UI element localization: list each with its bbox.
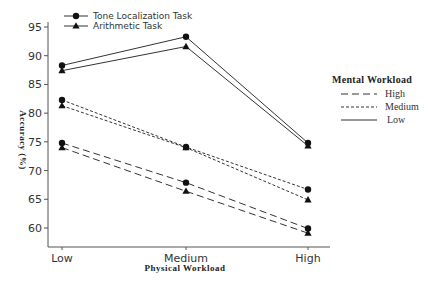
- y-axis-title: Accuracy (%): [18, 110, 28, 170]
- circle-marker: [183, 34, 189, 40]
- line-chart: 6065707580859095 LowMediumHigh Accuracy …: [0, 0, 428, 284]
- circle-marker: [183, 179, 189, 185]
- triangle-marker: [182, 187, 189, 193]
- legend-entry-medium: Medium: [341, 101, 419, 112]
- y-tick-label: 90: [28, 50, 42, 63]
- triangle-marker: [58, 102, 65, 108]
- circle-marker: [305, 186, 311, 192]
- y-tick-label: 95: [28, 21, 42, 34]
- legend-task: Tone Localization TaskArithmetic Task: [64, 11, 193, 31]
- triangle-marker: [182, 43, 189, 49]
- y-tick-label: 80: [28, 107, 42, 120]
- legend-entry-triangle: Arithmetic Task: [64, 21, 163, 31]
- legend-label: High: [385, 88, 405, 99]
- legend-label: Medium: [385, 101, 419, 112]
- legend-mental-workload: Mental WorkloadHighMediumLow: [332, 74, 419, 125]
- series-line: [58, 144, 311, 236]
- y-tick-label: 75: [28, 136, 42, 149]
- series-line: [59, 97, 311, 193]
- legend-label: Tone Localization Task: [92, 11, 193, 21]
- circle-marker: [73, 13, 79, 19]
- legend-entry-high: High: [341, 88, 405, 99]
- triangle-marker: [72, 22, 79, 28]
- legend-title: Mental Workload: [332, 74, 412, 85]
- x-axis-title: Physical Workload: [144, 263, 225, 273]
- series-group: [58, 34, 311, 236]
- x-tick-label: High: [295, 252, 320, 265]
- x-tick-label: Low: [51, 252, 73, 265]
- y-ticks: 6065707580859095: [28, 21, 48, 235]
- series-line: [59, 140, 311, 232]
- y-tick-label: 60: [28, 222, 42, 235]
- series-line: [58, 43, 311, 149]
- y-tick-label: 70: [28, 165, 42, 178]
- legend-label: Arithmetic Task: [93, 21, 163, 31]
- axes: 6065707580859095 LowMediumHigh: [28, 21, 330, 265]
- legend-label: Low: [387, 114, 406, 125]
- legend-entry-circle: Tone Localization Task: [64, 11, 193, 21]
- series-line: [58, 102, 311, 203]
- legend-entry-low: Low: [341, 114, 406, 125]
- y-tick-label: 65: [28, 193, 42, 206]
- series-line: [59, 34, 311, 147]
- y-tick-label: 85: [28, 78, 42, 91]
